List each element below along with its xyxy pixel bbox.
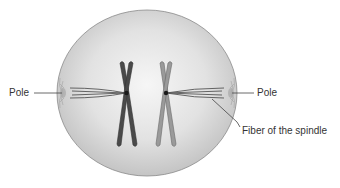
cell-diagram bbox=[0, 0, 340, 188]
centromere-light bbox=[164, 91, 168, 95]
fiber-label: Fiber of the spindle bbox=[242, 126, 327, 136]
centromere-dark bbox=[124, 91, 128, 95]
pole-left-label: Pole bbox=[9, 88, 29, 98]
pole-right-label: Pole bbox=[257, 88, 277, 98]
cell-membrane bbox=[57, 10, 237, 176]
